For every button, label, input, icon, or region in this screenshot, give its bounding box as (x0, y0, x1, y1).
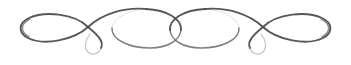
flourish-divider-graphic (0, 0, 351, 65)
background-rect (0, 0, 351, 65)
ornament-canvas: Symmetric scanned ink flourish divider (0, 0, 351, 65)
